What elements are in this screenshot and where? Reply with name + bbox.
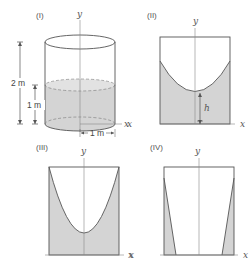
panel-2-paraboloid: (II) y h x x: [127, 11, 245, 129]
panel-1-label: (I): [36, 11, 44, 20]
panel-4-label: (IV): [150, 143, 163, 152]
dim-2m-label: 2 m: [11, 78, 25, 88]
panel-4-x-label-right: x: [243, 250, 248, 260]
panel-2-x-label-right: x: [240, 119, 245, 129]
dim-1m-label: 1 m: [27, 100, 41, 110]
panel-2-y-label: y: [192, 16, 199, 26]
panel-4-x-label-left: x: [128, 250, 133, 260]
panel-3-y-label: y: [80, 146, 87, 156]
panel-2-label: (II): [147, 11, 157, 20]
panel-1-y-label: y: [76, 9, 83, 19]
diagram-canvas: (I) y x 2 m 1 m: [0, 0, 252, 270]
panel-1-cylinder: (I) y x 2 m 1 m: [9, 9, 129, 138]
panel-4-y-label: y: [194, 146, 201, 156]
panel-2-x-label-left: x: [127, 119, 132, 129]
panel-3-label: (III): [36, 143, 48, 152]
h-label: h: [204, 103, 210, 113]
dim-radius-label: 1 m: [90, 128, 104, 138]
panel-4-extreme-rotation: (IV) y x x: [128, 143, 248, 260]
panel-3-deep-paraboloid: (III) y x: [36, 143, 134, 260]
